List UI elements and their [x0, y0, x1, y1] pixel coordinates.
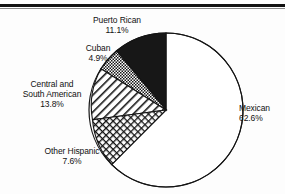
slice-label-mexican-value: 62.6% [239, 114, 285, 124]
slice-label-cuban-name: Cuban [86, 43, 111, 53]
slice-label-puerto-rican: Puerto Rican 11.1% [73, 16, 161, 36]
slice-label-puerto-rican-value: 11.1% [73, 26, 161, 36]
slice-label-mexican: Mexican 62.6% [239, 104, 285, 124]
slice-label-central-south-american: Central and South American 13.8% [6, 80, 98, 109]
slice-label-puerto-rican-name: Puerto Rican [93, 15, 141, 25]
slice-label-central-value: 13.8% [6, 100, 98, 110]
pie-chart-figure: Puerto Rican 11.1% Cuban 4.9% Central an… [0, 0, 285, 194]
slice-label-central-line1: Central and [31, 79, 74, 89]
slice-label-cuban: Cuban 4.9% [64, 44, 132, 64]
slice-label-other-hispanic-value: 7.6% [26, 157, 118, 167]
slice-label-cuban-value: 4.9% [64, 54, 132, 64]
slice-label-mexican-name: Mexican [239, 103, 270, 113]
slice-label-other-hispanic: Other Hispanic 7.6% [26, 147, 118, 167]
slice-label-other-hispanic-name: Other Hispanic [45, 146, 100, 156]
